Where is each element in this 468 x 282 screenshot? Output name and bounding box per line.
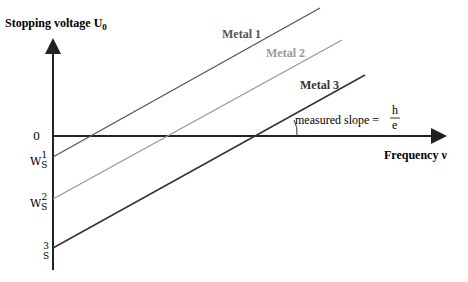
metal-3-line [53, 75, 365, 248]
photoelectric-diagram: Stopping voltage U0 Frequency ν 0 WS1 WS… [0, 0, 468, 282]
tick-ws2: WS2 [30, 192, 47, 212]
metal-3-label: Metal 3 [300, 78, 339, 92]
slope-numerator: h [392, 103, 398, 117]
tick-ws3: S3 [43, 241, 49, 261]
metal-2-label: Metal 2 [266, 46, 305, 60]
slope-denominator: e [392, 118, 397, 132]
metal-1-label: Metal 1 [222, 27, 261, 41]
slope-annotation: measured slope = [295, 113, 379, 127]
diagram-canvas: Stopping voltage U0 Frequency ν 0 WS1 WS… [0, 0, 468, 282]
x-axis-label: Frequency ν [384, 148, 447, 162]
metal-1-line [53, 8, 320, 157]
y-axis-label: Stopping voltage U0 [5, 16, 107, 32]
tick-ws1: WS1 [30, 150, 47, 170]
origin-label: 0 [33, 130, 40, 143]
